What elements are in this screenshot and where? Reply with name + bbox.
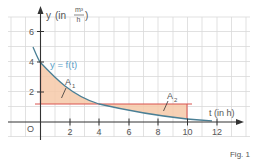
x-tick-label: 12 bbox=[212, 127, 222, 137]
x-tick-label: 2 bbox=[67, 127, 72, 137]
curve-label: y = f(t) bbox=[50, 59, 77, 70]
y-axis-arrow-icon bbox=[38, 6, 44, 14]
ticks bbox=[37, 32, 217, 126]
x-axis-label: t (in h) bbox=[209, 108, 235, 118]
y-axis-unit-prefix: (in bbox=[55, 10, 66, 21]
area-a2-subscript: 2 bbox=[174, 97, 178, 103]
y-tick-label: 4 bbox=[29, 57, 34, 67]
origin-label: O bbox=[27, 124, 34, 134]
y-axis-unit-numerator: m³ bbox=[75, 6, 84, 13]
x-axis-arrow-icon bbox=[236, 119, 244, 125]
figure-caption: Fig. 1 bbox=[230, 150, 251, 159]
function-graph: 2 4 6 8 10 12 2 4 6 O y (in m³ h ) t (in… bbox=[0, 0, 257, 164]
area-a2-label: A bbox=[167, 91, 173, 101]
x-tick-label: 4 bbox=[96, 127, 101, 137]
y-tick-label: 6 bbox=[29, 27, 34, 37]
area-a1-label: A bbox=[65, 77, 71, 87]
area-a1-subscript: 1 bbox=[72, 83, 76, 89]
y-axis-unit-denominator: h bbox=[77, 16, 81, 23]
y-tick-label: 2 bbox=[29, 87, 34, 97]
x-tick-label: 10 bbox=[182, 127, 192, 137]
x-tick-label: 6 bbox=[126, 127, 131, 137]
y-axis-unit-suffix: ) bbox=[85, 10, 88, 21]
y-axis-label: y bbox=[46, 10, 51, 21]
area-a2-fill bbox=[99, 104, 187, 119]
x-tick-label: 8 bbox=[155, 127, 160, 137]
